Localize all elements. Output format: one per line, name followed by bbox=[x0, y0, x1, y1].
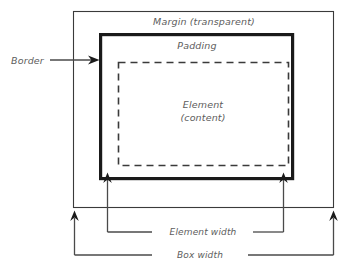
element-label-line1: Element bbox=[183, 99, 225, 110]
element-width-label: Element width bbox=[170, 227, 237, 237]
box-model-illustration: Margin (transparent) Padding Element (co… bbox=[0, 0, 351, 273]
border-label: Border bbox=[11, 55, 45, 66]
margin-label: Margin (transparent) bbox=[153, 16, 255, 27]
box-width-label: Box width bbox=[177, 250, 223, 260]
padding-label: Padding bbox=[177, 40, 216, 51]
box-model-diagram: Margin (transparent) Padding Element (co… bbox=[0, 0, 351, 273]
element-label-line2: (content) bbox=[180, 112, 225, 123]
